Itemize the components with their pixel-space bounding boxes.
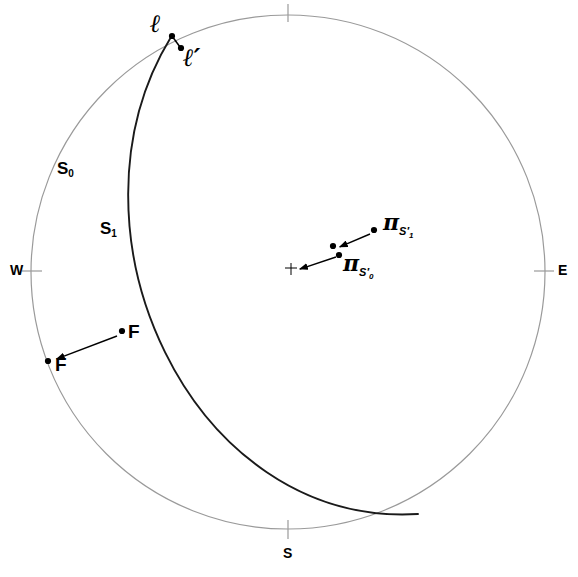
point-pi-intermediate (330, 243, 336, 249)
plane-label-s1-subscript: 1 (111, 228, 117, 239)
rotation-arrow-pi-s1 (340, 234, 370, 247)
point-f-outer (45, 358, 51, 364)
stereonet-canvas (0, 0, 578, 577)
primitive-circle (31, 15, 545, 529)
lineation-label-l-prime: ℓ′ (183, 45, 200, 70)
center-cross-icon (285, 263, 297, 275)
cardinal-label-west: W (10, 263, 23, 277)
stereonet-figure: W E S S0 S1 ℓ ℓ′ F F πS′1 πS′0 (0, 0, 578, 577)
pi-symbol-s0: π (343, 250, 359, 276)
plane-label-s1: S1 (100, 220, 117, 237)
pi-subscript-s1: S′1 (399, 225, 413, 237)
fold-axis-label-f-outer: F (55, 355, 67, 374)
point-pi-s1-prime (371, 227, 377, 233)
point-f-inner (119, 328, 125, 334)
plane-label-s1-base: S (100, 219, 111, 238)
plane-label-s0-subscript: 0 (68, 168, 74, 179)
lineation-label-l: ℓ (150, 11, 161, 36)
pi-pole-label-s1-prime: πS′1 (383, 211, 414, 233)
pi-subscript-s1-index: 1 (409, 231, 413, 240)
rotation-arrow-pi-s0 (300, 257, 336, 269)
plane-label-s0: S0 (57, 160, 74, 177)
fold-axis-label-f-inner: F (128, 322, 140, 341)
great-circle-arc-s1 (128, 37, 418, 514)
point-pi-s0-prime (336, 252, 342, 258)
point-l (169, 33, 175, 39)
pi-pole-label-s0-prime: πS′0 (343, 252, 374, 274)
plane-label-s0-base: S (57, 159, 68, 178)
pi-symbol-s1: π (383, 209, 399, 235)
cardinal-label-south: S (283, 546, 293, 560)
pi-subscript-s0-index: 0 (369, 272, 373, 281)
pi-subscript-s0: S′0 (359, 266, 373, 278)
cardinal-label-east: E (558, 263, 568, 277)
